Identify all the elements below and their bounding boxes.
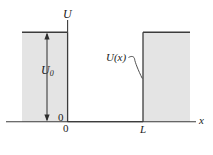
well-depth-label: U0 — [41, 64, 54, 78]
right-barrier-shading — [143, 32, 190, 122]
x-axis-label: x — [199, 115, 204, 126]
u-axis-label: U — [63, 8, 72, 20]
well-width-label: L — [140, 124, 146, 135]
origin-label: 0 — [63, 123, 69, 134]
potential-well-drawing — [0, 0, 213, 155]
potential-well-figure: U U0 U(x) 0 0 L x — [0, 0, 213, 155]
well-depth-subscript: 0 — [50, 69, 54, 78]
well-depth-symbol: U — [41, 63, 50, 77]
ux-leader-line — [129, 56, 143, 78]
potential-function-label: U(x) — [106, 52, 126, 63]
